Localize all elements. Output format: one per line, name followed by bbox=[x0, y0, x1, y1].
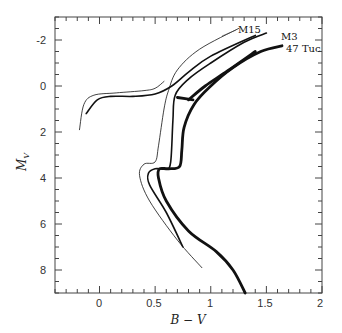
x-tick-label: 0.5 bbox=[146, 297, 161, 309]
curve-m3 bbox=[86, 35, 255, 113]
y-tick-label: 2 bbox=[40, 126, 46, 138]
y-tick-label: 0 bbox=[40, 80, 46, 92]
curve-m3 bbox=[148, 33, 267, 247]
y-tick-label: 8 bbox=[40, 264, 46, 276]
curve-47-tuc bbox=[189, 52, 256, 100]
y-tick-labels: -2 0 2 4 6 8 bbox=[36, 34, 46, 276]
y-tick-label: 4 bbox=[40, 172, 46, 184]
plot-frame bbox=[55, 17, 322, 293]
label-47tuc: 47 Tuc bbox=[286, 43, 321, 54]
y-axis-title-sub: V bbox=[22, 152, 31, 159]
y-tick-label: 6 bbox=[40, 218, 46, 230]
label-m15: M15 bbox=[238, 24, 261, 35]
m15-leader-line bbox=[222, 30, 236, 36]
svg-text:MV: MV bbox=[15, 152, 31, 172]
x-tick-label: 1 bbox=[207, 297, 213, 309]
y-tick-label: -2 bbox=[36, 34, 46, 46]
cmd-chart: 0 0.5 1 1.5 2 -2 0 2 4 6 8 B − V MV M15 … bbox=[0, 0, 342, 333]
x-axis-title: B − V bbox=[169, 313, 207, 327]
y-axis-title: MV bbox=[15, 152, 31, 172]
x-tick-labels: 0 0.5 1 1.5 2 bbox=[96, 297, 323, 309]
y-axis-title-main: M bbox=[15, 158, 29, 172]
isochrone-curves bbox=[80, 29, 283, 294]
label-m3: M3 bbox=[281, 31, 298, 42]
x-tick-label: 1.5 bbox=[257, 297, 272, 309]
x-tick-label: 0 bbox=[96, 297, 102, 309]
axis-ticks bbox=[55, 17, 322, 293]
x-tick-label: 2 bbox=[317, 297, 323, 309]
